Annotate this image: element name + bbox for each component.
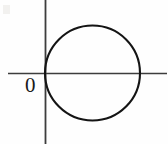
origin-label: 0 [25,74,36,96]
figure-canvas: 0 [0,0,168,144]
circle-diagram-svg [0,0,168,144]
